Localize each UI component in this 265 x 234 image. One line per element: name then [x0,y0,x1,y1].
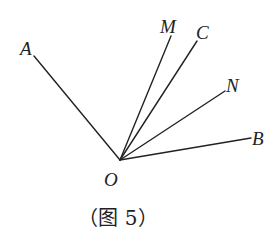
label-O: O [104,169,118,190]
ray-OB [120,138,251,160]
label-A: A [18,38,32,59]
ray-OM [120,36,171,160]
figure-caption: （图 5） [78,206,157,230]
figure-5: A M C N B O （图 5） [0,0,265,234]
label-C: C [196,22,209,43]
label-M: M [159,16,177,37]
ray-ON [120,91,225,160]
ray-OC [120,41,197,160]
label-B: B [252,128,264,149]
label-N: N [225,75,240,96]
ray-OA [34,56,120,160]
angle-diagram: A M C N B O （图 5） [0,0,265,234]
